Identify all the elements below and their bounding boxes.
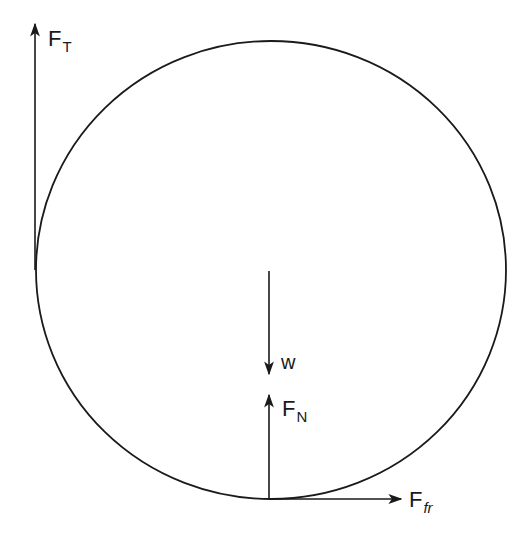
weight-label-main: w [281, 351, 295, 373]
friction-label-subscript: fr [423, 499, 432, 516]
tension-label-subscript: T [62, 38, 71, 55]
friction-force-label: Ffr [409, 489, 433, 511]
weight-force-label: w [281, 352, 295, 372]
normal-label-main: F [282, 396, 295, 421]
wheel-circle [36, 41, 506, 499]
normal-label-subscript: N [296, 408, 307, 425]
tension-label-main: F [48, 26, 61, 51]
tension-force-label: FT [48, 28, 72, 50]
normal-force-label: FN [282, 398, 307, 420]
friction-label-main: F [409, 487, 422, 512]
free-body-diagram [0, 0, 530, 543]
